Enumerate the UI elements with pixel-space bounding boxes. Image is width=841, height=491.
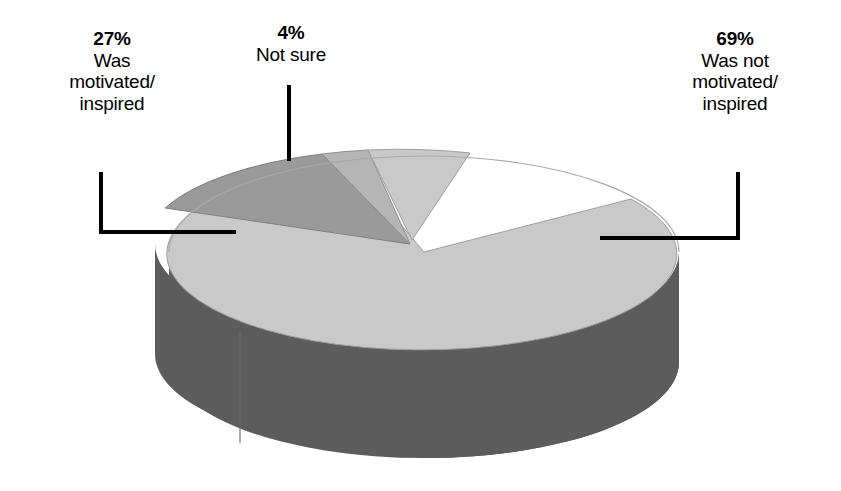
callout-left-line3: inspired — [32, 93, 192, 115]
callout-left-line2: motivated/ — [32, 71, 192, 93]
callout-middle-percent: 4% — [233, 22, 349, 44]
callout-right-line1: Was not — [650, 50, 820, 72]
callout-left-percent: 27% — [32, 28, 192, 50]
callout-right-line2: motivated/ — [650, 71, 820, 93]
chart-canvas: 27% Was motivated/ inspired 4% Not sure … — [0, 0, 841, 491]
pie-top-faces — [165, 149, 679, 350]
callout-middle-line1: Not sure — [233, 44, 349, 66]
callout-not-motivated: 69% Was not motivated/ inspired — [650, 28, 820, 115]
callout-not-sure: 4% Not sure — [233, 22, 349, 65]
callout-left-line1: Was — [32, 50, 192, 72]
callout-right-percent: 69% — [650, 28, 820, 50]
callout-right-line3: inspired — [650, 93, 820, 115]
callout-motivated: 27% Was motivated/ inspired — [32, 28, 192, 115]
